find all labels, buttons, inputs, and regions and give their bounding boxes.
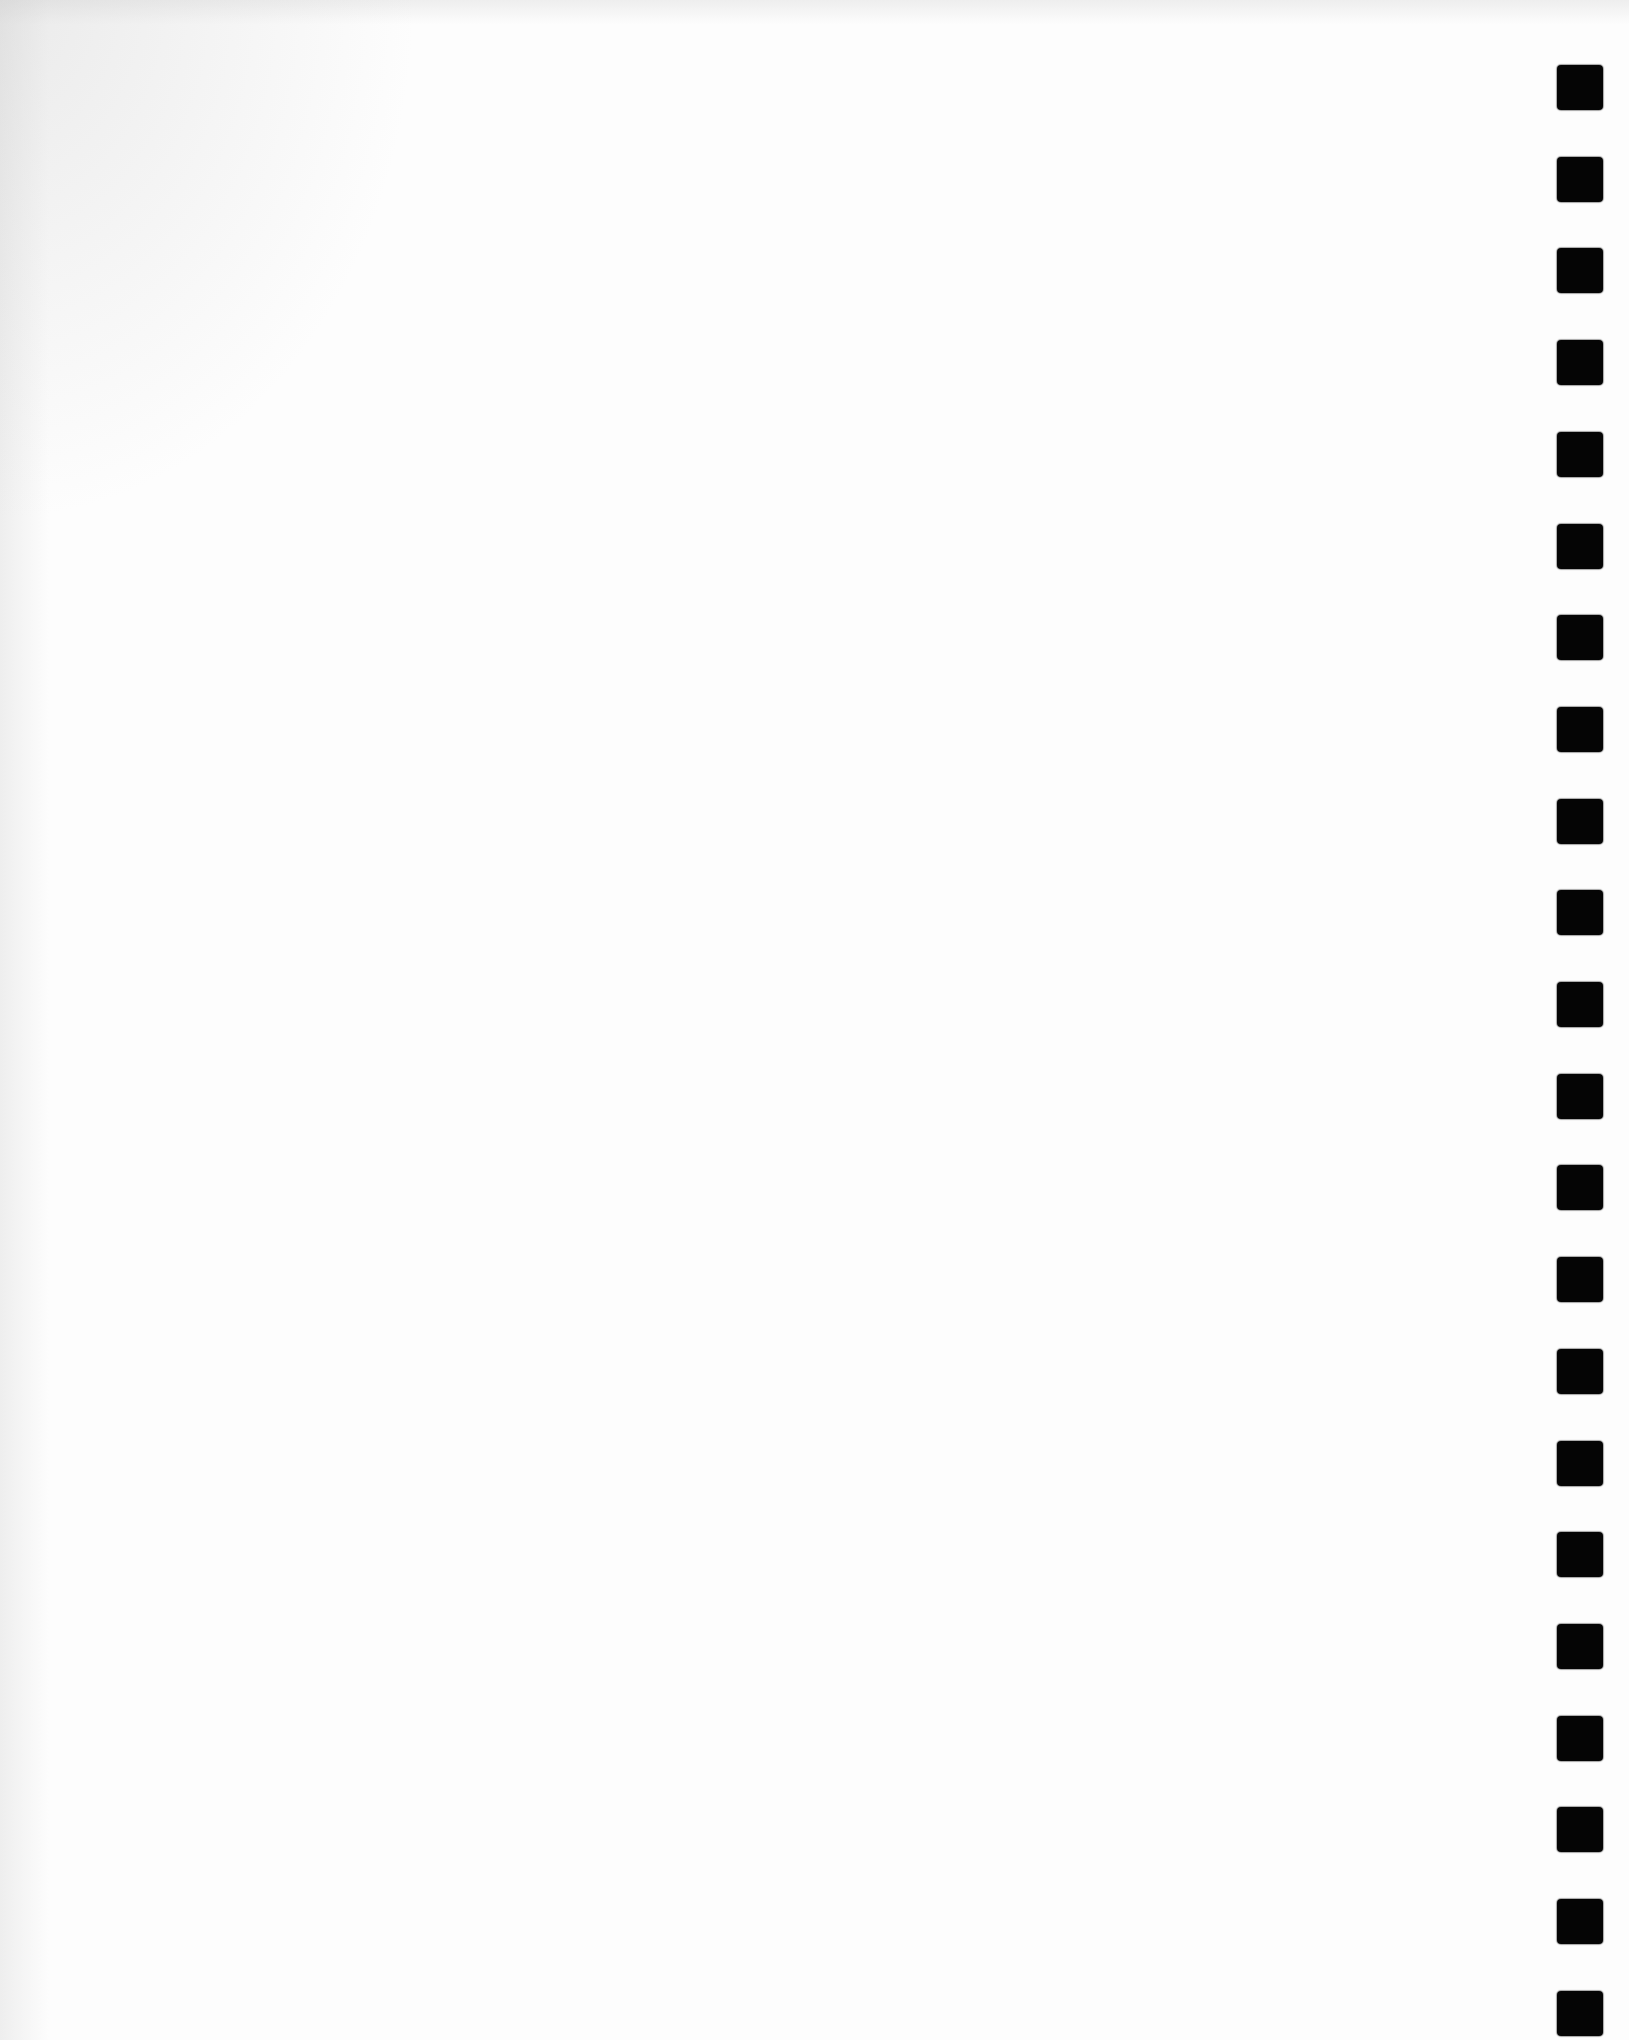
binding-hole-mark	[1557, 890, 1603, 935]
binding-hole-mark	[1557, 1899, 1603, 1944]
binding-hole-mark	[1557, 615, 1603, 660]
binding-hole-mark	[1557, 1257, 1603, 1302]
binding-marks-column	[1557, 0, 1605, 2040]
binding-hole-mark	[1557, 1624, 1603, 1669]
binding-hole-mark	[1557, 1532, 1603, 1577]
binding-hole-mark	[1557, 1441, 1603, 1486]
binding-hole-mark	[1557, 982, 1603, 1027]
binding-hole-mark	[1557, 1074, 1603, 1119]
binding-hole-mark	[1557, 432, 1603, 477]
binding-hole-mark	[1557, 1165, 1603, 1210]
binding-hole-mark	[1557, 248, 1603, 293]
binding-hole-mark	[1557, 157, 1603, 202]
binding-hole-mark	[1557, 65, 1603, 110]
binding-hole-mark	[1557, 524, 1603, 569]
binding-hole-mark	[1557, 340, 1603, 385]
binding-hole-mark	[1557, 1991, 1603, 2036]
binding-hole-mark	[1557, 799, 1603, 844]
scanned-page	[0, 0, 1629, 2040]
binding-hole-mark	[1557, 707, 1603, 752]
binding-hole-mark	[1557, 1349, 1603, 1394]
binding-hole-mark	[1557, 1807, 1603, 1852]
binding-hole-mark	[1557, 1716, 1603, 1761]
